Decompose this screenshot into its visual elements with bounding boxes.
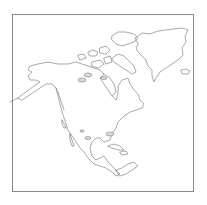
central-america-outline bbox=[116, 162, 138, 176]
alaska-panhandle-islands bbox=[56, 88, 64, 110]
greenland-outline bbox=[135, 28, 188, 82]
lake-winnipeg bbox=[101, 77, 107, 80]
arctic-island-2 bbox=[78, 54, 86, 60]
aleutian-islands bbox=[10, 98, 18, 102]
arctic-island-1 bbox=[88, 50, 98, 56]
great-bear-lake bbox=[84, 73, 92, 77]
baffin-island-outline bbox=[112, 54, 136, 74]
lake-michigan bbox=[85, 137, 91, 140]
arctic-island-5 bbox=[104, 56, 112, 64]
great-slave-lake bbox=[78, 78, 86, 82]
cuba-outline bbox=[108, 144, 124, 150]
iceland-outline bbox=[181, 69, 190, 74]
great-salt-lake bbox=[80, 130, 84, 132]
hispaniola-outline bbox=[120, 151, 128, 155]
arctic-island-3 bbox=[100, 46, 110, 54]
ellesmere-island-outline bbox=[112, 32, 138, 46]
north-america-outline-map bbox=[0, 0, 207, 205]
great-lakes bbox=[106, 132, 114, 136]
vancouver-island bbox=[62, 120, 66, 128]
arctic-island-4 bbox=[92, 60, 104, 68]
